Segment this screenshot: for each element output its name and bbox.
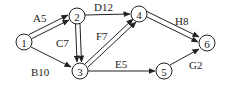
- edge-label-a5: A5: [33, 12, 47, 24]
- edge-c7: [76, 24, 82, 62]
- node-label-5: 5: [161, 66, 167, 78]
- node-label-3: 3: [77, 66, 83, 78]
- edge-label-c7: C7: [56, 37, 69, 49]
- network-diagram: A5 B10 C7 D12 F7 E5 G2 H8 1 2 3 4 5 6: [0, 0, 229, 88]
- node-2: 2: [69, 8, 85, 24]
- edge-label-e5: E5: [115, 58, 128, 70]
- edge-label-b10: B10: [31, 66, 50, 78]
- edge-label-f7: F7: [96, 30, 108, 42]
- node-3: 3: [72, 63, 88, 79]
- node-label-1: 1: [21, 37, 27, 49]
- node-6: 6: [199, 35, 215, 51]
- edge-label-h8: H8: [175, 15, 189, 27]
- node-4: 4: [131, 6, 147, 22]
- node-label-4: 4: [136, 9, 142, 21]
- edge-label-g2: G2: [189, 59, 202, 71]
- edge-d12: [85, 14, 130, 15]
- node-1: 1: [16, 34, 32, 50]
- node-label-6: 6: [204, 38, 210, 50]
- edge-label-d12: D12: [94, 1, 113, 13]
- edge-b10: [31, 47, 71, 67]
- node-label-2: 2: [74, 11, 80, 23]
- edge-f7: [85, 19, 136, 67]
- edge-h8: [145, 11, 199, 42]
- node-5: 5: [156, 63, 172, 79]
